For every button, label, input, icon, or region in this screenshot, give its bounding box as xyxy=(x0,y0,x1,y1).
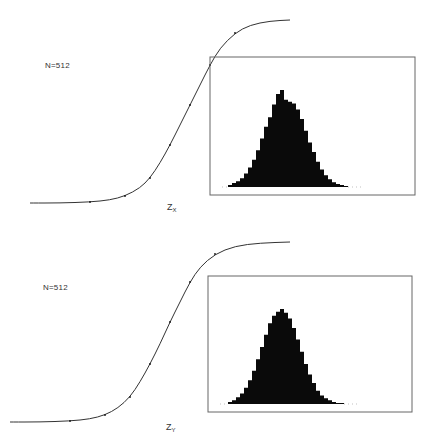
zx-histogram-inset xyxy=(210,57,415,195)
zy-axis-sub: Y xyxy=(172,427,176,433)
panel-zx: N=512 ZX xyxy=(0,0,428,222)
panel-zy: N=512 ZY xyxy=(0,222,428,445)
zx-axis-sub: X xyxy=(173,207,177,213)
zx-axis-label: ZX xyxy=(167,202,177,213)
zy-axis-label: ZY xyxy=(166,422,176,433)
zy-histogram-inset xyxy=(208,276,412,412)
zy-plot-area xyxy=(0,222,428,445)
zy-sample-size-label: N=512 xyxy=(43,283,68,292)
zx-plot-area xyxy=(0,0,428,222)
zx-sample-size-label: N=512 xyxy=(45,61,70,70)
